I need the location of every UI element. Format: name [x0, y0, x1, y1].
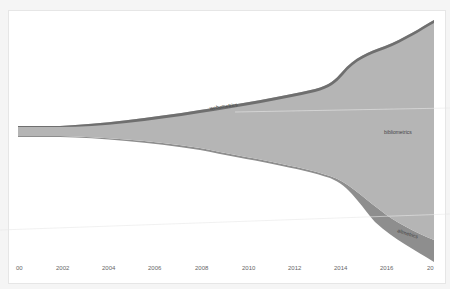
streamgraph-chart: webometrics bibliometrics altmetrics 00 …: [0, 0, 450, 289]
label-bibliometrics: bibliometrics: [384, 129, 412, 135]
x-tick: 2014: [334, 265, 348, 271]
x-tick: 20: [427, 265, 434, 271]
x-tick: 2010: [242, 265, 256, 271]
x-tick: 2012: [288, 265, 302, 271]
x-tick: 2004: [102, 265, 116, 271]
x-tick: 00: [16, 265, 23, 271]
x-tick: 2002: [56, 265, 70, 271]
x-tick: 2008: [195, 265, 209, 271]
x-tick: 2006: [148, 265, 162, 271]
x-tick: 2016: [380, 265, 394, 271]
x-axis: 00 2002 2004 2006 2008 2010 2012 2014 20…: [16, 265, 434, 271]
